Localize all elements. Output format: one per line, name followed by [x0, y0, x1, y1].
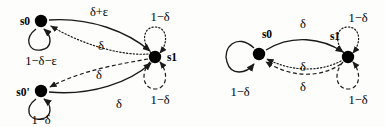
right-label-s1: s1 [330, 30, 340, 42]
left-s0-self-loop [29, 29, 50, 50]
left-node-s1[interactable] [149, 51, 161, 63]
left-label-s0p: s0' [16, 86, 29, 98]
left-node-s0[interactable] [35, 15, 47, 27]
right-label-s1-loop-bottom: 1−δ [348, 93, 367, 107]
left-label-edge-s0p-s1: δ [116, 97, 122, 111]
left-label-s0: s0 [20, 15, 30, 27]
left-label-s0p-loop: 1−δ [31, 113, 50, 127]
left-label-edge-s1-s0: δ [98, 39, 104, 53]
state-diagram-figure: s0 s0' s1 1−δ−ε 1−δ 1−δ 1−δ δ+ε δ δ δ s0… [0, 0, 385, 127]
right-label-edge-s1-s0-dotted: δ [300, 60, 306, 74]
diagram-canvas: s0 s0' s1 1−δ−ε 1−δ 1−δ 1−δ δ+ε δ δ δ s0… [0, 0, 385, 127]
left-label-s1: s1 [167, 51, 177, 63]
right-label-s0: s0 [262, 28, 272, 40]
left-label-s1-loop-top: 1−δ [150, 10, 169, 24]
right-label-s0-loop: 1−δ [230, 85, 249, 99]
right-label-edge-s1-s0-dashed: δ [300, 80, 306, 94]
right-label-edge-s0-s1: δ [300, 17, 306, 31]
left-label-s0-loop: 1−δ−ε [25, 54, 57, 68]
left-node-s0p[interactable] [35, 85, 47, 97]
left-label-edge-s1-s0p: δ [96, 68, 102, 82]
right-node-s0[interactable] [253, 48, 265, 60]
left-label-s1-loop-bottom: 1−δ [150, 93, 169, 107]
right-s0-self-loop [226, 41, 254, 72]
right-s1-self-loop-bottom [337, 62, 359, 89]
right-s1-self-loop-top [338, 27, 359, 53]
right-node-s1[interactable] [342, 51, 354, 63]
left-label-edge-s0-s1: δ+ε [90, 5, 108, 19]
right-label-s1-loop-top: 1−δ [348, 11, 367, 25]
